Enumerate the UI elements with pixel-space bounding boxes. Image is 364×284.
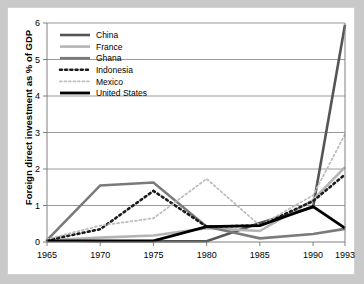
x-tick-label: 1985 [250,250,270,260]
chart-card: Foreign direct investment as % of GDP 01… [7,7,355,275]
y-tick-label: 4 [35,91,40,101]
y-tick-label: 5 [35,55,40,65]
series-line-mexico [47,134,345,239]
legend-label-indonesia: Indonesia [96,65,133,75]
x-tick-label: 1970 [90,250,110,260]
legend-label-united-states: United States [96,88,147,98]
x-axis-ticks: 1965197019751980198519901993 [37,242,355,260]
legend: ChinaFranceGhanaIndonesiaMexicoUnited St… [60,30,147,98]
legend-label-china: China [96,30,118,40]
x-tick-label: 1993 [335,250,355,260]
legend-label-ghana: Ghana [96,53,122,63]
data-series-group [47,25,345,241]
y-tick-label: 6 [35,18,40,28]
y-tick-label: 0 [35,237,40,247]
x-tick-label: 1965 [37,250,57,260]
legend-label-france: France [96,42,123,52]
x-tick-label: 1980 [197,250,217,260]
x-tick-label: 1990 [303,250,323,260]
y-tick-label: 1 [35,201,40,211]
y-axis-ticks: 0123456 [35,18,47,247]
gridlines [47,23,345,206]
y-tick-label: 2 [35,164,40,174]
y-tick-label: 3 [35,128,40,138]
x-tick-label: 1975 [143,250,163,260]
legend-label-mexico: Mexico [96,77,123,87]
line-chart: Foreign direct investment as % of GDP 01… [8,8,356,276]
plot-area: 0123456 1965197019751980198519901993 Chi… [8,8,356,276]
